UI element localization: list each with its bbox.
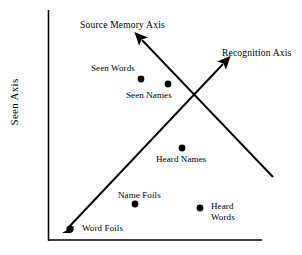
- point-label-heard-words: HeardWords: [211, 201, 251, 222]
- point-label-name-foils: Name Foils: [118, 190, 161, 201]
- point-dot-name-foils: [132, 201, 139, 208]
- point-label-heard-words-line2: Words: [211, 212, 235, 222]
- point-dot-seen-names: [165, 81, 172, 88]
- point-label-seen-names: Seen Names: [126, 90, 172, 101]
- recognition-axis-line: [68, 64, 223, 228]
- y-axis-title: Seen Axis: [8, 62, 20, 142]
- recognition-axis-label: Recognition Axis: [222, 48, 291, 58]
- point-dot-heard-names: [179, 145, 186, 152]
- point-label-seen-words: Seen Words: [91, 63, 135, 74]
- diagram-canvas: [0, 0, 302, 255]
- point-label-heard-names: Heard Names: [156, 154, 206, 165]
- point-label-word-foils: Word Foils: [82, 223, 123, 234]
- point-dot-word-foils: [66, 225, 73, 232]
- source-memory-axis-label: Source Memory Axis: [80, 20, 165, 30]
- point-dot-heard-words: [197, 205, 204, 212]
- memory-space-diagram: Seen Axis Source Memory Axis Recognition…: [0, 0, 302, 255]
- point-dot-seen-words: [138, 76, 145, 83]
- point-label-heard-words-line1: Heard: [211, 201, 234, 211]
